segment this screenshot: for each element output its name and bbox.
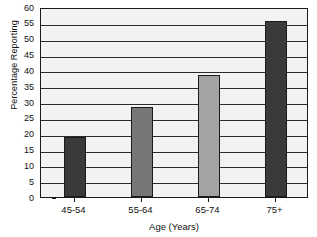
y-axis-tick-label: 5 bbox=[16, 178, 34, 187]
y-axis-tick-label: 40 bbox=[16, 67, 34, 76]
bar bbox=[64, 137, 86, 197]
x-axis-tick-mark bbox=[141, 198, 142, 202]
y-axis-tick-label: 30 bbox=[16, 99, 34, 108]
y-axis-tick-label: 45 bbox=[16, 51, 34, 60]
y-axis-tick-label: 15 bbox=[16, 146, 34, 155]
bar bbox=[198, 75, 220, 197]
bar-chart: Percentage Reporting 0510152025303540455… bbox=[0, 0, 317, 237]
y-axis-tick-label: 35 bbox=[16, 83, 34, 92]
x-axis-line bbox=[40, 197, 308, 198]
x-axis-tick-label: 55-64 bbox=[128, 204, 152, 215]
y-axis-tick-label: 10 bbox=[16, 162, 34, 171]
y-axis-tick-label: 55 bbox=[16, 19, 34, 28]
bar bbox=[131, 107, 153, 197]
x-axis-tick-label: 45-54 bbox=[61, 204, 85, 215]
bar bbox=[265, 21, 287, 197]
x-axis-tick-mark bbox=[208, 198, 209, 202]
x-axis-tick-mark bbox=[74, 198, 75, 202]
y-axis-tick-label: 0 bbox=[16, 194, 34, 203]
x-axis-tick-mark bbox=[275, 198, 276, 202]
plot-area bbox=[40, 8, 308, 198]
y-axis-tick-mark bbox=[52, 198, 56, 199]
x-axis-tick-label: 65-74 bbox=[195, 204, 219, 215]
y-axis-tick-label: 20 bbox=[16, 130, 34, 139]
y-axis-tick-label: 25 bbox=[16, 114, 34, 123]
y-axis-tick-labels: 051015202530354045505560 bbox=[16, 8, 34, 198]
y-axis-tick-label: 50 bbox=[16, 35, 34, 44]
y-axis-tick-label: 60 bbox=[16, 4, 34, 13]
x-axis-title: Age (Years) bbox=[40, 221, 308, 232]
x-axis-tick-label: 75+ bbox=[266, 204, 282, 215]
